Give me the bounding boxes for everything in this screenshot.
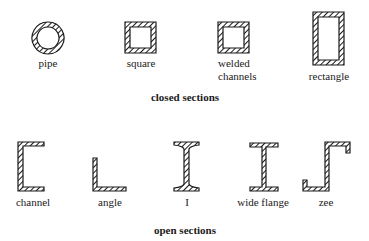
channel-label: channel [16,196,50,208]
channel-section-icon [18,142,44,191]
zee-label: zee [319,196,334,208]
welded-channels-section-icon [218,22,249,53]
pipe-section-icon [32,22,64,54]
wide-flange-label: wide flange [237,196,289,208]
closed-sections-caption: closed sections [151,91,219,103]
welded-channels-label-line1: welded [218,57,250,69]
wide-flange-section-icon [250,143,278,191]
angle-label: angle [98,196,122,208]
i-beam-section-icon [174,142,199,191]
rectangle-section-icon [313,12,344,65]
square-label: square [127,57,156,69]
zee-section-icon [303,142,350,191]
angle-section-icon [93,158,126,191]
welded-channels-label-line2: channels [218,70,256,82]
pipe-label: pipe [39,57,58,69]
open-sections-caption: open sections [154,224,216,236]
square-section-icon [125,22,156,53]
rectangle-label: rectangle [309,70,349,82]
i-beam-label: I [185,196,189,208]
